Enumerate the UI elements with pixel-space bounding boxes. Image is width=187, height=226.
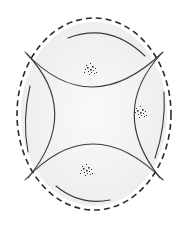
diagram-canvas <box>0 0 187 226</box>
oval-fill <box>21 22 167 206</box>
